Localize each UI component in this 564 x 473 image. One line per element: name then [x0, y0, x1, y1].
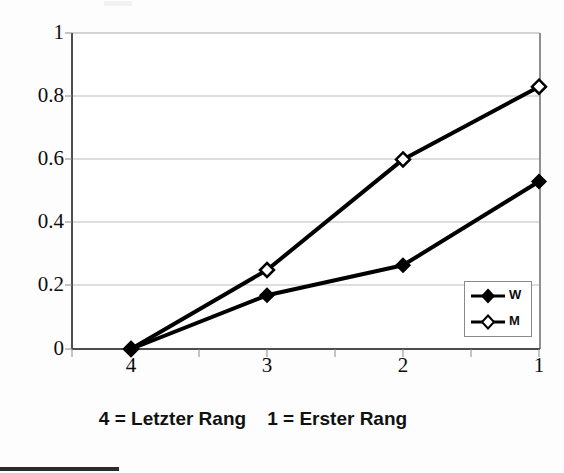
- x-tick-label: 3: [247, 355, 287, 376]
- y-axis-labels: 1 0.8 0.6 0.4 0.2 0: [0, 0, 64, 473]
- legend-swatch-filled-diamond-icon: [469, 282, 507, 310]
- chart-canvas: [0, 0, 564, 473]
- y-tick-label: 0: [6, 338, 64, 359]
- legend-entry-w[interactable]: W: [465, 282, 533, 310]
- legend-entry-m[interactable]: M: [465, 308, 533, 336]
- line-chart-figure: 1 0.8 0.6 0.4 0.2 0 4 3 2 1 W: [0, 0, 564, 473]
- y-tick-marks: [65, 33, 72, 349]
- chart-page: 1 0.8 0.6 0.4 0.2 0 4 3 2 1 W: [0, 0, 564, 473]
- y-tick-label: 0.6: [6, 148, 64, 169]
- bottom-rule-artifact: [0, 467, 119, 471]
- y-tick-label: 0.8: [6, 85, 64, 106]
- x-tick-label: 2: [383, 355, 423, 376]
- chart-legend[interactable]: W M: [464, 281, 532, 337]
- y-tick-label: 0.4: [6, 211, 64, 232]
- x-tick-label: 4: [111, 355, 151, 376]
- chart-caption: 4 = Letzter Rang 1 = Erster Rang: [0, 408, 506, 430]
- legend-swatch-open-diamond-icon: [469, 308, 507, 336]
- legend-label-w: W: [509, 288, 521, 302]
- y-tick-label: 1: [6, 22, 64, 43]
- x-tick-label: 1: [519, 355, 559, 376]
- y-tick-label: 0.2: [6, 274, 64, 295]
- legend-label-m: M: [509, 314, 520, 328]
